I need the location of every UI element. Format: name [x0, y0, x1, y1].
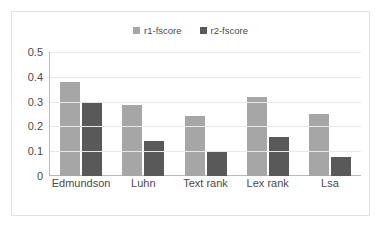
y-axis-tick-label: 0.2 — [28, 121, 43, 132]
bar-r2-fscore-edmundson[interactable] — [82, 103, 102, 176]
y-axis-tick-label: 0.3 — [28, 96, 43, 107]
bar-group — [50, 52, 112, 176]
bar-r2-fscore-lex-rank[interactable] — [269, 137, 289, 176]
gridline — [50, 126, 361, 127]
y-axis-tick-label: 0.4 — [28, 71, 43, 82]
bar-r1-fscore-lsa[interactable] — [309, 114, 329, 176]
x-axis-tick-label: Luhn — [112, 178, 174, 189]
bar-group — [299, 52, 361, 176]
x-axis-tick-label: Text rank — [174, 178, 236, 189]
bar-group — [112, 52, 174, 176]
bar-r2-fscore-lsa[interactable] — [331, 157, 351, 176]
bar-r2-fscore-text-rank[interactable] — [207, 152, 227, 176]
x-axis-tick-label: Lsa — [299, 178, 361, 189]
bar-r1-fscore-lex-rank[interactable] — [247, 97, 267, 176]
y-axis-tick-label: 0 — [37, 171, 43, 182]
bar-r1-fscore-luhn[interactable] — [122, 105, 142, 176]
x-axis: EdmundsonLuhnText rankLex rankLsa — [50, 178, 361, 189]
bar-group — [174, 52, 236, 176]
x-axis-tick-label: Lex rank — [237, 178, 299, 189]
bar-groups — [50, 52, 361, 176]
bar-r2-fscore-luhn[interactable] — [144, 141, 164, 176]
gridline — [50, 151, 361, 152]
plot-wrapper: 0.50.40.30.20.10 EdmundsonLuhnText rankL… — [12, 12, 369, 215]
gridline — [50, 102, 361, 103]
x-axis-tick-label: Edmundson — [50, 178, 112, 189]
gridline — [50, 77, 361, 78]
bar-r1-fscore-edmundson[interactable] — [60, 82, 80, 176]
y-axis: 0.50.40.30.20.10 — [12, 52, 47, 176]
bar-chart: r1-fscorer2-fscore 0.50.40.30.20.10 Edmu… — [11, 11, 370, 216]
gridline — [50, 52, 361, 53]
plot-area — [50, 52, 361, 176]
bar-group — [237, 52, 299, 176]
y-axis-tick-label: 0.1 — [28, 146, 43, 157]
y-axis-tick-label: 0.5 — [28, 47, 43, 58]
